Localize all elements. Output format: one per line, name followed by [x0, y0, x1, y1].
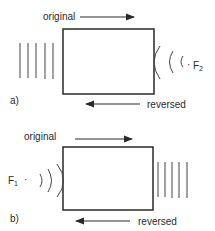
panel-a-source-label: F2	[193, 60, 203, 72]
panel-a-spherical-waves	[154, 46, 183, 79]
panel-b-source-dot: ·	[24, 174, 27, 185]
panel-a-box	[63, 29, 154, 94]
panel-b: original F1 · b) reversed	[8, 131, 187, 227]
diagram-canvas: original · F2 a) reversed original	[0, 0, 215, 231]
panel-a-original-label: original	[43, 11, 75, 22]
panel-a: original · F2 a) reversed	[10, 11, 203, 110]
panel-a-label: a)	[10, 95, 19, 106]
panel-a-reversed-label: reversed	[147, 99, 186, 110]
panel-b-box	[63, 147, 153, 210]
panel-a-source-dot: ·	[187, 59, 190, 70]
panel-b-label: b)	[10, 213, 19, 224]
panel-b-plane-waves	[158, 162, 187, 198]
panel-b-source-label: F1	[8, 175, 18, 187]
panel-a-plane-waves	[20, 43, 53, 79]
panel-b-reversed-label: reversed	[138, 216, 177, 227]
panel-b-original-label: original	[24, 131, 56, 142]
panel-b-spherical-waves	[40, 164, 64, 197]
